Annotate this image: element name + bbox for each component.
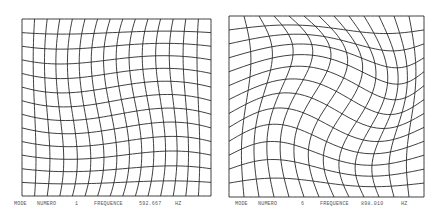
mesh-line: [229, 55, 424, 84]
mesh-line: [241, 16, 250, 197]
mesh-line: [229, 25, 424, 34]
frequency-value: 898.010: [361, 201, 383, 207]
mesh-line: [389, 16, 407, 197]
frequency-label: FREQUENCE: [320, 201, 349, 207]
mesh-line: [229, 141, 424, 165]
mesh-line: [229, 34, 424, 51]
numero-label: NUMERO: [258, 201, 277, 207]
mesh-line: [372, 16, 398, 197]
mesh-line: [229, 93, 424, 129]
mesh-line: [254, 16, 272, 197]
mode-6-caption: MODE NUMERO 6 FREQUENCE 898.010 HZ: [235, 201, 435, 209]
mesh-line: [229, 66, 424, 100]
mode-number: 6: [301, 201, 304, 207]
frequency-unit: HZ: [401, 201, 407, 207]
mode-label: MODE: [235, 201, 248, 207]
mesh-line: [229, 160, 424, 177]
mode-shape-panel-6: MODE NUMERO 6 FREQUENCE 898.010 HZ: [0, 0, 444, 214]
mesh-line: [339, 16, 376, 197]
deformed-mesh-mode-6: [0, 0, 444, 214]
